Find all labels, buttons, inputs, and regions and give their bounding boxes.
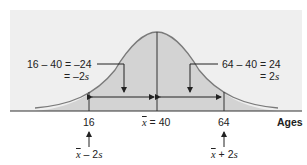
left-annotation-eq: = –2	[64, 70, 85, 82]
right-annotation-line1: 64 – 40 = 24	[222, 58, 281, 70]
left-annotation-line1: 16 – 40 = –24	[27, 58, 92, 70]
bottom-left-label: x – 2s	[76, 148, 102, 161]
bottom-right-var: s	[233, 148, 237, 160]
normal-curve-diagram	[0, 0, 307, 165]
bottom-right-label: x + 2s	[211, 148, 238, 161]
right-annotation-eq: = 2	[260, 70, 275, 82]
right-annotation-var: s	[275, 70, 279, 82]
tick-label-mean: x = 40	[142, 116, 170, 129]
bottom-right-op: + 2	[216, 148, 234, 160]
left-annotation-var: s	[85, 70, 89, 82]
mean-value: = 40	[147, 116, 171, 128]
tick-label-16: 16	[83, 116, 95, 128]
right-annotation-line2: = 2s	[260, 70, 279, 82]
axis-label-ages: Ages	[277, 116, 303, 128]
bottom-left-op: – 2	[81, 148, 99, 160]
left-annotation-line2: = –2s	[64, 70, 89, 82]
tick-label-64: 64	[218, 116, 230, 128]
bottom-left-var: s	[98, 148, 102, 160]
